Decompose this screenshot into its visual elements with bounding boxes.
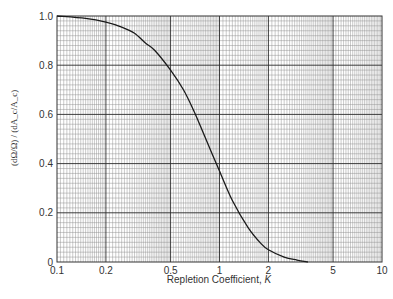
y-axis-title-text: (dΩ/Ω) / (dA_c/A_c) xyxy=(9,90,19,166)
y-tick-label: 0 xyxy=(47,257,53,268)
y-tick-label: 1.0 xyxy=(39,11,53,22)
y-axis-title: (dΩ/Ω) / (dA_c/A_c) xyxy=(9,126,23,166)
x-axis-title: Repletion Coefficient, K xyxy=(167,274,273,285)
y-tick-labels: 00.20.40.60.81.0 xyxy=(39,11,53,268)
x-tick-label: 10 xyxy=(376,265,388,276)
major-grid xyxy=(57,16,382,262)
x-tick-label: 5 xyxy=(330,265,336,276)
x-tick-label: 0.2 xyxy=(99,265,113,276)
y-tick-label: 0.6 xyxy=(39,109,53,120)
y-tick-label: 0.2 xyxy=(39,207,53,218)
chart: 0.10.20.512510 00.20.40.60.81.0 Repletio… xyxy=(0,0,393,299)
y-tick-label: 0.4 xyxy=(39,158,53,169)
y-tick-label: 0.8 xyxy=(39,60,53,71)
